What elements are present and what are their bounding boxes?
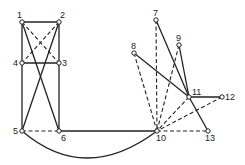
edge-11-10 <box>157 97 189 131</box>
arcs-layer <box>22 131 157 158</box>
node-4 <box>20 61 24 65</box>
edge-8-10 <box>134 53 157 131</box>
edge-12-10 <box>157 97 222 131</box>
node-label-12: 12 <box>225 92 235 102</box>
node-label-11: 11 <box>192 87 201 97</box>
node-label-10: 10 <box>156 133 166 143</box>
edge-9-11 <box>179 45 189 97</box>
node-11 <box>187 95 191 99</box>
node-label-3: 3 <box>62 58 67 68</box>
node-label-6: 6 <box>61 133 66 143</box>
node-label-4: 4 <box>13 58 18 68</box>
edges-layer <box>22 20 222 131</box>
node-1 <box>20 20 24 24</box>
node-label-2: 2 <box>60 10 65 20</box>
node-12 <box>220 95 224 99</box>
edge-9-10 <box>157 45 179 131</box>
node-9 <box>177 43 181 47</box>
labels-layer: 12345678910111213 <box>13 8 235 143</box>
node-label-5: 5 <box>13 126 18 136</box>
node-label-7: 7 <box>153 8 158 18</box>
node-7 <box>154 18 158 22</box>
edge-7-10 <box>156 20 157 131</box>
edge-11-13 <box>189 97 208 131</box>
node-3 <box>57 61 61 65</box>
node-5 <box>20 129 24 133</box>
arc-5-10 <box>22 131 157 158</box>
nodes-layer <box>20 18 224 133</box>
node-label-13: 13 <box>205 133 215 143</box>
node-8 <box>132 51 136 55</box>
edge-7-11 <box>156 20 189 97</box>
node-label-8: 8 <box>131 41 136 51</box>
graph-diagram: 12345678910111213 <box>0 0 245 165</box>
node-label-1: 1 <box>17 10 22 20</box>
node-2 <box>57 20 61 24</box>
node-label-9: 9 <box>176 33 181 43</box>
edge-8-11 <box>134 53 189 97</box>
